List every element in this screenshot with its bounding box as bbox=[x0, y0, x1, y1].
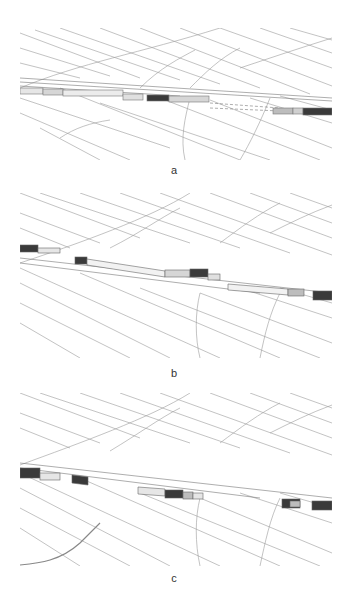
map-b-graphic bbox=[20, 193, 332, 358]
map-a-graphic bbox=[20, 28, 332, 160]
panel-a-label: a bbox=[0, 164, 348, 176]
panel-c-label: c bbox=[0, 572, 348, 584]
map-c-graphic bbox=[20, 393, 332, 566]
panel-b-label: b bbox=[0, 367, 348, 379]
panel-a bbox=[20, 28, 332, 160]
panel-c bbox=[20, 393, 332, 566]
panel-b bbox=[20, 193, 332, 358]
